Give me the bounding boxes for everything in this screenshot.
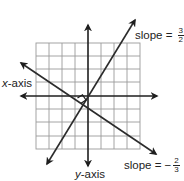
line1-fraction: 32 bbox=[178, 27, 184, 44]
x-axis-label: x-axis bbox=[2, 78, 32, 90]
line1-denominator: 2 bbox=[178, 36, 184, 44]
line2-slope-sign: − bbox=[165, 159, 172, 171]
x-axis-suffix: -axis bbox=[8, 77, 32, 89]
line2-slope-text: slope = bbox=[124, 159, 165, 171]
line2-slope-label: slope = −23 bbox=[124, 157, 180, 174]
line-slope-3-2 bbox=[47, 20, 135, 164]
line1-slope-text: slope = bbox=[135, 29, 176, 41]
y-axis-label: y-axis bbox=[75, 169, 105, 181]
line2-denominator: 3 bbox=[173, 166, 179, 174]
line1-slope-label: slope = 32 bbox=[135, 27, 184, 44]
line2-fraction: 23 bbox=[173, 157, 179, 174]
y-axis-suffix: -axis bbox=[81, 168, 105, 180]
